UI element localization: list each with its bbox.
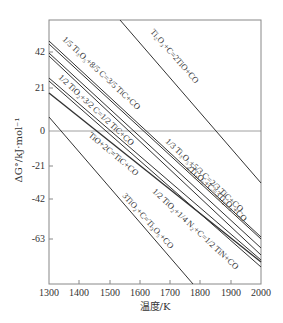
label-ti2o3-tio: Ti₂O₃+C=2TiO+CO: [148, 27, 201, 86]
line-tio2-tin: [49, 81, 261, 267]
x-tick-label: 1600: [130, 287, 150, 298]
label-ti3o5-tic-a: 1/5 Ti₃O₅+8/5 C=3/5 TiC+CO: [61, 34, 143, 111]
x-tick-label: 1400: [69, 287, 89, 298]
x-tick-label: 2000: [251, 287, 271, 298]
x-tick-label: 1500: [100, 287, 120, 298]
y-tick-label: -21: [32, 160, 45, 171]
x-axis: 1300 1400 1500 1600 1700 1800 1900 2000 …: [39, 280, 271, 312]
y-tick-label: 42: [35, 46, 45, 57]
x-tick-label: 1700: [160, 287, 180, 298]
y-axis-title: ΔG°/kJ·mol⁻¹: [13, 118, 24, 183]
ellingham-chart: 42 21 0 -21 -42 -63 ΔG°/kJ·mol⁻¹ 1300 14…: [0, 0, 283, 323]
y-tick-label: 0: [40, 125, 45, 136]
y-tick-label: -42: [32, 193, 45, 204]
x-tick-label: 1900: [221, 287, 241, 298]
y-axis: 42 21 0 -21 -42 -63 ΔG°/kJ·mol⁻¹: [13, 46, 53, 244]
y-tick-label: -63: [32, 233, 45, 244]
x-tick-label: 1800: [190, 287, 210, 298]
y-tick-label: 21: [35, 82, 45, 93]
line-tio-tic: [49, 93, 261, 262]
line-ti3o5-ti2o3: [49, 53, 261, 248]
x-tick-label: 1300: [39, 287, 59, 298]
x-axis-title: 温度/K: [140, 300, 171, 312]
